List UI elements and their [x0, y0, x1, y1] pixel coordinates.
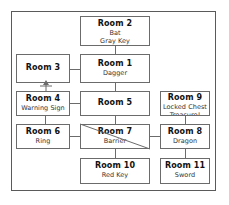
- room-detail: Dagger: [81, 69, 149, 77]
- room-box-room10[interactable]: Room 10 Red Key: [80, 158, 150, 184]
- barrier-diagonal-icon: [80, 124, 150, 149]
- room-title: Room 4: [17, 94, 69, 104]
- connector-room8-room11: [185, 149, 186, 158]
- room-box-room5[interactable]: Room 5: [80, 91, 150, 116]
- connector-room6-room7: [70, 136, 80, 137]
- connector-room7-room10: [115, 149, 116, 158]
- room-box-room11[interactable]: Room 11 Sword: [160, 158, 210, 184]
- room-detail: Gray Key: [81, 37, 149, 45]
- room-box-room1[interactable]: Room 1 Dagger: [80, 54, 150, 83]
- room-title: Room 10: [81, 161, 149, 171]
- room-detail: Dragon: [161, 137, 209, 145]
- connector-room3-room1: [70, 69, 80, 70]
- room-title: Room 5: [81, 98, 149, 108]
- room-title: Room 6: [17, 127, 69, 137]
- room-title: Room 1: [81, 59, 149, 69]
- room-detail: Red Key: [81, 171, 149, 179]
- room-box-room3[interactable]: Room 3: [16, 54, 70, 83]
- room-box-room8[interactable]: Room 8 Dragon: [160, 124, 210, 149]
- connector-room7-room8: [150, 136, 160, 137]
- room-box-room9[interactable]: Room 9 Locked Chest Treasure!: [160, 91, 210, 116]
- room-detail: Warning Sign: [17, 104, 69, 112]
- room-title: Room 9: [161, 93, 209, 103]
- connector-room2-room1: [115, 46, 116, 54]
- connector-room5-room7: [115, 116, 116, 124]
- connector-room9-room8: [185, 116, 186, 124]
- room-title: Room 11: [161, 161, 209, 171]
- room-title: Room 8: [161, 127, 209, 137]
- room-box-room2[interactable]: Room 2 Bat Gray Key: [80, 16, 150, 46]
- connector-room4-room5: [70, 103, 80, 104]
- room-detail: Ring: [17, 137, 69, 145]
- dungeon-map-canvas: Room 2 Bat Gray Key Room 3 Room 1 Dagger…: [0, 0, 229, 205]
- room-detail: Treasure!: [161, 111, 209, 116]
- connector-room1-room5: [115, 83, 116, 91]
- room-box-room6[interactable]: Room 6 Ring: [16, 124, 70, 149]
- connector-room4-room6: [45, 116, 46, 124]
- room-title: Room 3: [17, 63, 69, 73]
- room-detail: Locked Chest: [161, 103, 209, 111]
- room-box-room4[interactable]: Room 4 Warning Sign: [16, 91, 70, 116]
- room-detail: Sword: [161, 171, 209, 179]
- one-way-arrow-icon: [38, 80, 54, 92]
- room-title: Room 2: [81, 19, 149, 29]
- room-detail: Bat: [81, 29, 149, 37]
